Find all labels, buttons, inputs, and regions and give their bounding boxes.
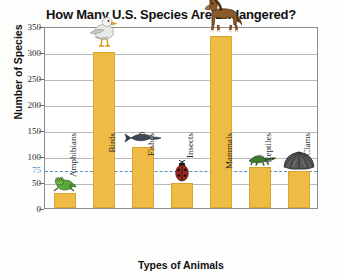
x-axis-title: Types of Animals [44,259,318,271]
reference-line-75 [45,171,317,172]
x-tick-birds: Birds [107,133,117,213]
y-tick-250: 250 [7,74,41,84]
y-tick-350: 350 [7,22,41,32]
gridline [45,158,317,159]
y-tick-mark [39,209,44,210]
x-tick-amphibians: Amphibians [68,133,78,213]
y-tick-150: 150 [7,126,41,136]
x-tick-reptiles: Reptiles [263,133,273,213]
y-tick-200: 200 [7,100,41,110]
endangered-species-bar-chart: How Many U.S. Species Are Endangered? Nu… [0,0,342,280]
y-tick-reference-75: 75 [7,165,41,175]
x-tick-fishes: Fishes [146,133,156,213]
gridline [45,132,317,133]
y-tick-0: 0 [7,204,41,214]
chart-title: How Many U.S. Species Are Endangered? [0,7,342,22]
y-tick-300: 300 [7,48,41,58]
x-tick-clams: Clams [302,133,312,213]
gridline [45,54,317,55]
plot-area [44,27,318,209]
y-tick-50: 50 [7,178,41,188]
x-tick-mammals: Mammals [224,133,234,213]
y-tick-100: 100 [7,152,41,162]
x-tick-insects: Insects [185,133,195,213]
gridline [45,106,317,107]
gridline [45,80,317,81]
